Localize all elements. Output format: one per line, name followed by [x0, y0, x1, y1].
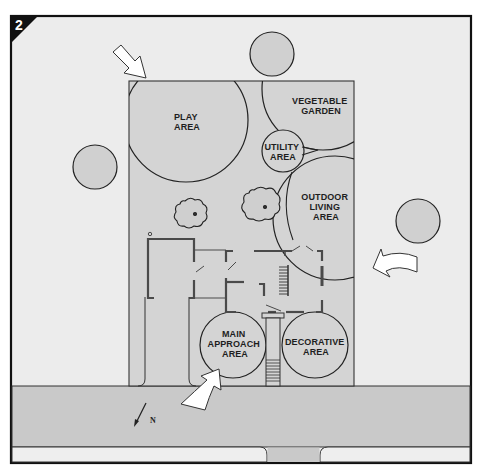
sidewalk-left: [12, 447, 267, 462]
tree-right: [396, 199, 440, 243]
tree-top: [250, 32, 294, 76]
shrub-left-center: [194, 213, 197, 216]
side-road: [268, 448, 320, 463]
walkway: [266, 318, 280, 386]
street: [12, 386, 470, 447]
shrub-right-center: [264, 206, 267, 209]
figure-number: 2: [15, 17, 23, 33]
landscape-plan-diagram: N 2 PLAY AREA VEGETABLE GARDEN UTILITY A…: [0, 0, 485, 475]
tree-left: [73, 145, 117, 189]
sidewalk-right: [320, 447, 470, 462]
play-area-label: PLAY AREA: [174, 112, 200, 132]
front-stoop: [262, 313, 284, 318]
north-label: N: [150, 416, 156, 425]
